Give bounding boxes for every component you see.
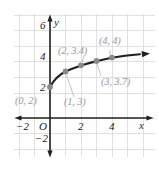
point-label-2-34: (2, 3.4) <box>58 46 87 57</box>
point-label-0-2: (0, 2) <box>15 96 37 107</box>
x-axis <box>15 115 154 120</box>
y-tick-label-2: 2 <box>40 82 46 93</box>
x-tick-label-neg2: −2 <box>16 121 29 132</box>
point-label-3-37: (3, 3.7) <box>101 77 130 88</box>
x-axis-label: x <box>139 120 144 131</box>
graph-figure: x y O −2 2 4 6 4 2 −2 (0, 2) (1, 3) (2, … <box>0 0 159 169</box>
y-tick-label-neg2: −2 <box>35 133 48 144</box>
y-axis-label: y <box>54 17 59 28</box>
origin-label: O <box>39 121 47 132</box>
y-tick-label-6: 6 <box>40 20 46 31</box>
x-tick-label-2: 2 <box>78 121 84 132</box>
point-label-1-3: (1, 3) <box>64 97 86 108</box>
point-label-4-4: (4, 4) <box>99 36 121 47</box>
y-tick-label-4: 4 <box>40 51 46 62</box>
x-tick-label-4: 4 <box>109 121 115 132</box>
leader-lines <box>67 50 111 97</box>
grid-lines-horizontal <box>14 15 155 149</box>
coordinate-plane <box>0 0 159 169</box>
